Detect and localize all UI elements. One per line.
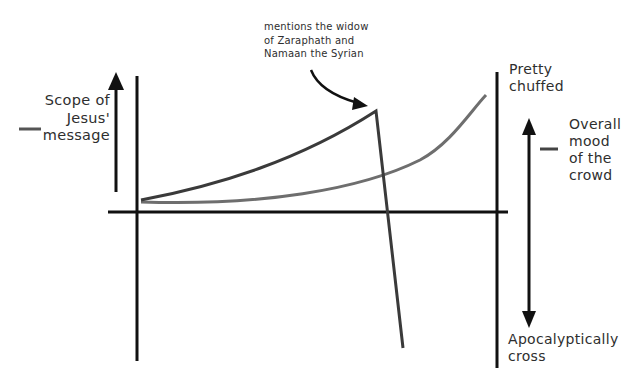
annotation-text: mentions the widow of Zaraphath and Nama… xyxy=(264,20,369,61)
right-axis-top-label: Pretty chuffed xyxy=(509,61,564,95)
scope-curve xyxy=(141,111,403,348)
scope-label: Scope of Jesus' message xyxy=(30,92,110,145)
scope-arrow xyxy=(108,72,124,192)
mood-arrow xyxy=(522,118,536,328)
mood-curve xyxy=(141,95,486,203)
annotation-arrow xyxy=(311,70,368,110)
mood-label: Overall mood of the crowd xyxy=(569,116,621,184)
right-axis-bottom-label: Apocalyptically cross xyxy=(508,331,619,365)
